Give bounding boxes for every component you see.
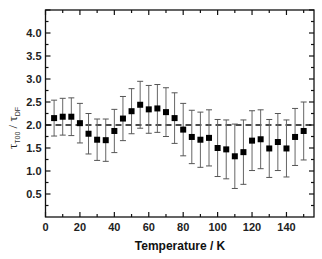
- y-tick-label: 1.0: [26, 165, 41, 177]
- data-point: [86, 131, 92, 137]
- y-tick-label: 3.0: [26, 73, 41, 85]
- data-point: [197, 137, 203, 143]
- data-point: [232, 153, 238, 159]
- data-point: [94, 137, 100, 143]
- data-point: [180, 127, 186, 133]
- data-point: [266, 145, 272, 151]
- data-point: [275, 139, 281, 145]
- data-point: [68, 114, 74, 120]
- data-point: [163, 109, 169, 115]
- data-point: [137, 102, 143, 108]
- data-point: [146, 106, 152, 112]
- data-point: [154, 105, 160, 111]
- data-point: [206, 135, 212, 141]
- x-tick-label: 40: [108, 221, 120, 233]
- y-label-separator: /: [5, 122, 20, 132]
- x-tick-label: 140: [277, 221, 295, 233]
- data-point: [258, 136, 264, 142]
- y-tick-label: 1.5: [26, 142, 41, 154]
- svg-text:τT00 / τDF: τT00 / τDF: [5, 107, 21, 149]
- data-point: [77, 120, 83, 126]
- x-tick-label: 120: [243, 221, 261, 233]
- data-point: [249, 138, 255, 144]
- data-point: [129, 108, 135, 114]
- x-tick-label: 100: [208, 221, 226, 233]
- chart: 020406080100120140 0.51.01.52.02.53.03.5…: [0, 0, 322, 259]
- x-tick-label: 0: [42, 221, 48, 233]
- data-point: [301, 128, 307, 134]
- data-markers: [51, 102, 307, 160]
- data-point: [172, 115, 178, 121]
- data-point: [292, 134, 298, 140]
- y-tick-label: 2.5: [26, 96, 41, 108]
- data-point: [103, 137, 109, 143]
- x-tick-label: 20: [74, 221, 86, 233]
- x-axis-title: Temperature / K: [135, 239, 226, 253]
- y-tick-label: 3.5: [26, 50, 41, 62]
- data-point: [189, 134, 195, 140]
- data-point: [60, 114, 66, 120]
- data-point: [51, 115, 57, 121]
- data-point: [111, 128, 117, 134]
- y-tick-label: 2.0: [26, 119, 41, 131]
- x-tick-label: 60: [143, 221, 155, 233]
- data-point: [223, 146, 229, 152]
- y-axis-title: τT00 / τDF: [5, 107, 21, 149]
- data-point: [215, 145, 221, 151]
- data-point: [240, 149, 246, 155]
- y-tick-label: 4.0: [26, 27, 41, 39]
- y-axis: 0.51.01.52.02.53.03.54.0: [26, 10, 314, 206]
- y-label-sub-2: DF: [14, 107, 21, 116]
- x-tick-label: 80: [177, 221, 189, 233]
- y-tick-label: 0.5: [26, 188, 41, 200]
- data-point: [120, 116, 126, 122]
- y-label-sub-1: T00: [14, 132, 21, 144]
- data-point: [283, 145, 289, 151]
